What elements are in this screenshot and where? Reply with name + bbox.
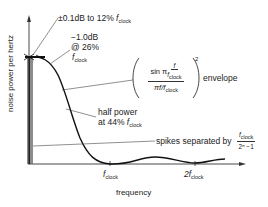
half-power-sub: clock bbox=[129, 122, 142, 128]
annotation-spikes: spikes separated by bbox=[156, 137, 232, 146]
envelope-right-paren bbox=[193, 58, 199, 98]
spectrum-plot bbox=[0, 0, 268, 207]
spike-bar-edge bbox=[29, 56, 31, 164]
half-power-text: at 44% bbox=[98, 117, 127, 127]
envelope-sin-pi: sin π bbox=[150, 67, 167, 76]
leader-half-power bbox=[66, 109, 96, 117]
envelope-inner-fraction: f fclock bbox=[167, 62, 181, 80]
annotation-minus1db-line1: −1.0dB bbox=[71, 33, 98, 42]
flatness-text: ±0.1dB to 12% bbox=[58, 13, 116, 23]
spikes-frac-top-sub: clock bbox=[241, 134, 254, 140]
envelope-den-text: πf/f bbox=[154, 83, 165, 92]
annotation-half-power-line2: at 44% fclock bbox=[98, 118, 142, 129]
x-tick-label-fclock: fclock bbox=[103, 170, 118, 181]
x-tick-fclock-sub: clock bbox=[105, 174, 118, 180]
y-axis-arrow-icon bbox=[27, 15, 31, 22]
envelope-left-paren bbox=[133, 58, 139, 98]
envelope-numerator: sin π f fclock bbox=[148, 62, 183, 82]
spikes-frac-top: fclock bbox=[237, 131, 255, 142]
annotation-flatness: ±0.1dB to 12% fclock bbox=[58, 14, 131, 25]
inner-frac-bottom-sub: clock bbox=[169, 74, 182, 80]
inner-frac-bottom: fclock bbox=[167, 70, 181, 80]
spikes-fraction: fclock 2ⁿ −1 bbox=[237, 131, 255, 150]
x-tick-2fclock-sub: clock bbox=[191, 174, 204, 180]
leader-minus1db bbox=[50, 50, 70, 64]
envelope-label: envelope bbox=[203, 74, 238, 83]
x-axis-arrow-icon bbox=[239, 162, 246, 166]
annotation-half-power-line1: half power bbox=[98, 108, 137, 117]
x-axis-label: frequency bbox=[116, 189, 151, 197]
leader-envelope bbox=[62, 80, 133, 90]
spikes-frac-bottom: 2ⁿ −1 bbox=[239, 142, 254, 150]
leader-spikes bbox=[33, 141, 155, 146]
inner-frac-top: f bbox=[171, 62, 179, 70]
envelope-denominator: πf/fclock bbox=[154, 82, 178, 93]
y-axis-label: noise power per hertz bbox=[6, 35, 15, 112]
annotation-minus1db-line2: @ 26% bbox=[71, 43, 99, 52]
flatness-sub: clock bbox=[118, 18, 131, 24]
x-tick-label-2fclock: 2fclock bbox=[184, 170, 204, 181]
envelope-formula: sin π f fclock πf/fclock bbox=[140, 62, 192, 93]
minus1db-sub: clock bbox=[74, 57, 87, 63]
annotation-minus1db-line3: fclock bbox=[72, 53, 87, 64]
envelope-exponent: 2 bbox=[195, 56, 198, 62]
leader-flatness bbox=[33, 18, 58, 55]
envelope-den-sub: clock bbox=[165, 87, 178, 93]
